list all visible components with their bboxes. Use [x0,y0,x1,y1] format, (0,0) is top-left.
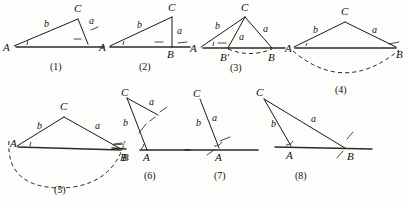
figure-number: (1) [50,61,62,73]
vertex-label-A: A [285,149,293,161]
figure-6: C B A b a (6) [112,86,190,182]
side-label-b: b [313,24,318,35]
vertex-label-C: C [241,1,249,13]
side-a-segment [78,19,88,44]
figure-number: (8) [295,170,307,182]
vertex-label-C: C [74,2,82,14]
figure-1: A C b a (1) [2,2,104,73]
dash-tick [347,132,353,139]
figure-number: (3) [230,62,242,74]
angle-arc-A [213,42,214,46]
side-b-segment [294,22,345,47]
figure-number: (5) [54,184,66,196]
angle-arc-A [123,41,124,45]
figure-2: A C B b a (2) [98,1,190,73]
figure-5: A C B b a (5) [9,100,127,196]
figure-number: (7) [214,170,226,182]
side-label-b: b [137,19,142,30]
vertex-label-C: C [193,87,201,99]
side-label-a: a [372,24,377,35]
dash-tick [150,117,155,121]
baseline-left-stub [112,148,126,149]
side-label-b: b [196,117,201,128]
side-a-segment [345,22,396,47]
figure-4: A C B b a (4) [284,5,403,96]
angle-arc-A [214,142,222,146]
vertex-label-C: C [168,1,176,13]
vertex-label-B: B [347,150,354,162]
figure-number: (6) [144,170,156,182]
angle-arc-A [306,43,307,46]
side-label-a: a [89,15,94,26]
angle-arc-A [30,142,31,146]
side-label-a: a [95,120,100,131]
dash-tick [160,107,167,112]
side-a-segment [264,99,345,148]
dash-tick [178,42,187,43]
vertex-label-A: A [284,42,292,54]
dash-tick [220,137,230,141]
side-label-a: a [311,113,316,124]
side-label-b: b [123,117,128,128]
vertex-label-B: B [396,48,403,60]
vertex-label-B: B [122,151,129,163]
vertex-label-C: C [256,86,264,98]
dash-tick [337,151,343,158]
side-label-a-left: a [239,31,244,42]
figure-7: C A b a (7) [185,87,258,182]
angle-arc-A [141,144,144,149]
side-b-segment [200,99,219,148]
dash-tick [389,42,399,44]
geometry-figure-sheet: A C b a (1) A C B b a (2) [0,0,406,204]
dashed-arc [293,50,399,73]
vertex-label-A: A [142,151,150,163]
side-a-segment [64,117,121,149]
side-label-a-right: a [263,23,268,34]
side-label-b: b [271,118,276,129]
vertex-label-A: A [214,151,222,163]
figure-number: (4) [335,84,347,96]
vertex-label-A: A [98,41,106,53]
vertex-label-B-prime: B' [220,51,230,63]
vertex-label-A: A [2,41,10,53]
vertex-label-C: C [60,100,68,112]
side-label-b: b [44,18,49,29]
vertex-label-C: C [341,5,349,17]
dashed-arc [228,49,272,54]
dash-tick [91,27,98,30]
side-b-segment [127,98,147,150]
angle-arc-A [27,41,28,45]
side-label-a: a [177,25,182,36]
vertex-label-B: B [167,48,174,60]
vertex-label-A: A [189,42,197,54]
baseline [18,147,121,150]
vertex-label-C: C [121,86,129,98]
side-label-b: b [37,120,42,131]
figure-3: A C B' B b a a (3) [189,1,285,74]
side-label-a: a [212,112,217,123]
vertex-label-A: A [9,137,17,149]
figures-canvas: A C b a (1) A C B b a (2) [0,0,406,204]
figure-8: C A B b a (8) [256,86,372,182]
side-label-b: b [215,20,220,31]
figure-number: (2) [139,61,151,73]
vertex-label-B: B [268,51,275,63]
side-b-segment [264,99,291,146]
side-label-a: a [149,96,154,107]
dash-tick [139,124,146,133]
